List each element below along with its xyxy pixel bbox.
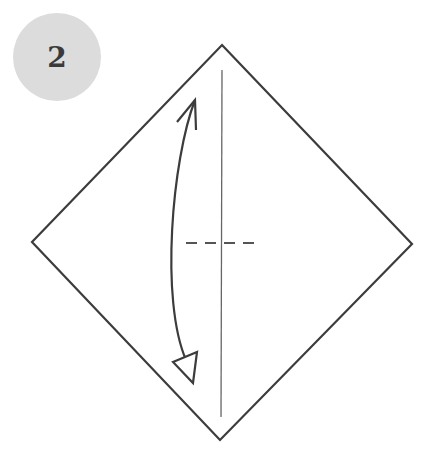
diagram-canvas [0, 0, 440, 453]
origami-step-diagram: 2 [0, 0, 440, 453]
